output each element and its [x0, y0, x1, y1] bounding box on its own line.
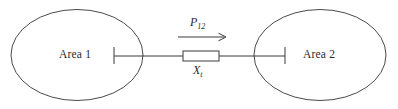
area-1-label: Area 1 [59, 49, 91, 61]
reactance-subscript: t [200, 70, 202, 79]
power-flow-label: P12 [190, 16, 205, 28]
power-flow-subscript: 12 [197, 22, 205, 31]
tie-line-reactance-box [183, 51, 219, 61]
area-2-label: Area 2 [303, 49, 335, 61]
reactance-label: Xt [193, 64, 203, 76]
tie-line-diagram: Area 1 Area 2 P12 Xt [0, 0, 398, 109]
